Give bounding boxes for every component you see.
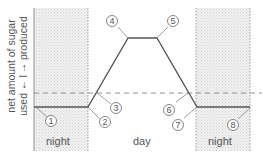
marker-6: 6 xyxy=(164,105,175,116)
marker-2: 2 xyxy=(100,117,111,128)
used-label: used xyxy=(17,93,29,116)
region-label-night-left: night xyxy=(46,135,70,147)
svg-text:3: 3 xyxy=(113,103,118,113)
marker-3: 3 xyxy=(111,103,122,114)
night-region-right xyxy=(196,8,250,151)
marker-4: 4 xyxy=(107,16,118,27)
svg-text:7: 7 xyxy=(175,120,180,130)
y-axis-title: net amount of sugar xyxy=(5,16,17,116)
svg-text:6: 6 xyxy=(166,105,171,115)
marker-8: 8 xyxy=(228,120,239,131)
marker-5: 5 xyxy=(168,16,179,27)
marker-1: 1 xyxy=(46,116,57,127)
arrow-right-icon: → xyxy=(17,63,29,73)
arrow-left-icon: ← xyxy=(17,80,29,90)
region-label-day: day xyxy=(133,135,151,147)
svg-text:1: 1 xyxy=(48,116,53,126)
marker-7: 7 xyxy=(173,120,184,131)
y-axis-label: net amount of sugar used ← → produced xyxy=(0,0,34,158)
night-region-left xyxy=(34,8,88,151)
svg-text:4: 4 xyxy=(109,16,114,26)
svg-text:2: 2 xyxy=(102,117,107,127)
region-label-night-right: night xyxy=(208,135,232,147)
produced-label: produced xyxy=(17,16,29,60)
svg-text:8: 8 xyxy=(230,120,235,130)
zero-tick xyxy=(19,76,27,77)
svg-text:5: 5 xyxy=(170,16,175,26)
